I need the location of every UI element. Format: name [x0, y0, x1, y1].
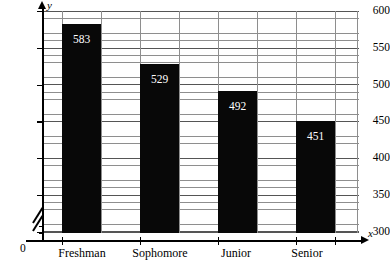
origin-label: 0: [20, 242, 26, 254]
bar-junior[interactable]: 492: [218, 91, 257, 233]
y-axis-letter: y: [47, 0, 52, 11]
y-tick-600: [37, 11, 43, 12]
x-tick: [140, 237, 141, 245]
y-label-350: 350: [356, 189, 390, 201]
vertical-gridline: [101, 11, 102, 233]
plot-area: 583 529 492 451: [43, 11, 359, 233]
x-axis-line: [26, 240, 363, 242]
bar-value-label: 583: [62, 34, 101, 46]
bar-chart: 583 529 492 451 y x 600 550 500 450 400 …: [0, 0, 390, 270]
vertical-gridline: [335, 11, 336, 233]
x-tick: [335, 237, 336, 245]
x-category-junior: Junior: [202, 247, 270, 259]
y-tick-550: [37, 48, 43, 49]
bar-freshman[interactable]: 583: [62, 24, 101, 233]
y-label-400: 400: [356, 152, 390, 164]
x-category-sophomore: Sophomore: [116, 247, 204, 259]
x-tick: [218, 237, 219, 245]
vertical-gridline: [257, 11, 258, 233]
x-tick: [62, 237, 63, 245]
bar-senior[interactable]: 451: [296, 121, 335, 233]
x-category-freshman: Freshman: [42, 247, 122, 259]
y-label-600: 600: [356, 5, 390, 17]
y-axis-arrow-icon: [38, 1, 46, 9]
y-label-550: 550: [356, 42, 390, 54]
y-tick-minor: [39, 233, 43, 234]
y-tick-350: [37, 195, 43, 196]
bar-value-label: 529: [140, 74, 179, 86]
y-label-300: 300: [356, 226, 390, 238]
y-tick-minor: [39, 226, 43, 227]
y-label-450: 450: [356, 115, 390, 127]
y-tick-450: [37, 121, 43, 122]
y-label-500: 500: [356, 79, 390, 91]
y-axis-line: [42, 8, 44, 241]
bar-value-label: 492: [218, 101, 257, 113]
vertical-gridline: [179, 11, 180, 233]
y-tick-500: [37, 85, 43, 86]
y-tick-400: [37, 158, 43, 159]
bar-sophomore[interactable]: 529: [140, 64, 179, 233]
x-tick: [296, 237, 297, 245]
bar-value-label: 451: [296, 131, 335, 143]
chart-title-remnant: [150, 0, 260, 2]
x-category-senior: Senior: [272, 247, 342, 259]
